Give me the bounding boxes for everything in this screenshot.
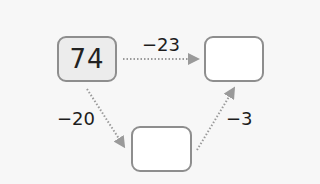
operation-minus-3: −3 <box>226 108 253 129</box>
start-number-box: 74 <box>57 36 117 82</box>
operation-minus-20: −20 <box>57 108 95 129</box>
operation-minus-23: −23 <box>142 34 180 55</box>
answer-box-bottom[interactable] <box>131 126 192 172</box>
start-number: 74 <box>69 44 104 74</box>
answer-box-top-right[interactable] <box>204 36 264 82</box>
